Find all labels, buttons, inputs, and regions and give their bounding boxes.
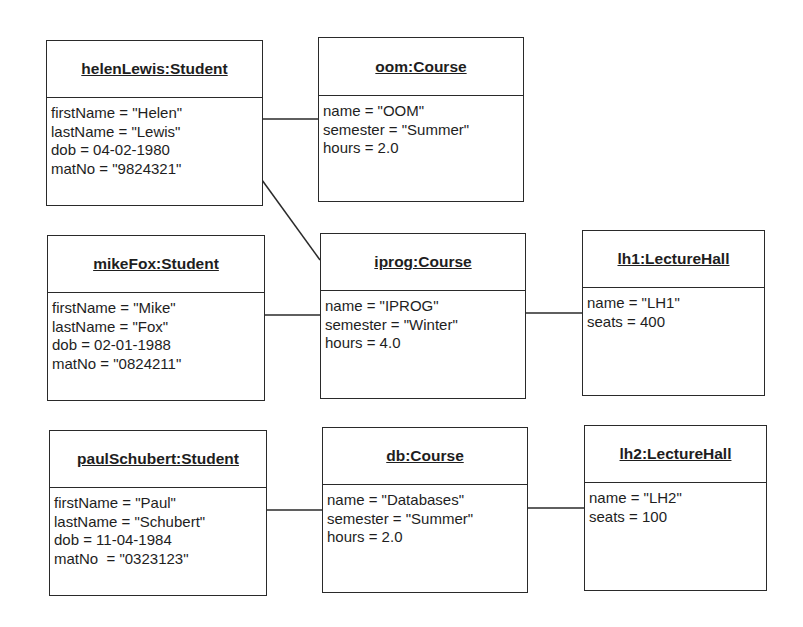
attribute: name = "Databases": [327, 491, 527, 510]
object-oom-course: oom:Course name = "OOM" semester = "Summ…: [318, 37, 524, 202]
object-title: helenLewis:Student: [81, 60, 227, 78]
attribute: hours = 4.0: [325, 334, 525, 353]
attribute: name = "LH2": [589, 489, 766, 508]
object-title: paulSchubert:Student: [77, 450, 239, 468]
object-header: db:Course: [323, 428, 527, 485]
object-header: iprog:Course: [321, 234, 525, 291]
object-attributes: name = "LH1" seats = 400: [583, 288, 764, 331]
link-helen-iprog: [262, 180, 320, 260]
attribute: matNo = "0824211": [52, 355, 264, 374]
object-lh1-lecturehall: lh1:LectureHall name = "LH1" seats = 400: [582, 230, 765, 396]
object-attributes: name = "LH2" seats = 100: [585, 483, 766, 526]
object-paulschubert-student: paulSchubert:Student firstName = "Paul" …: [49, 430, 267, 596]
attribute: lastName = "Lewis": [51, 123, 262, 142]
attribute: name = "OOM": [323, 102, 523, 121]
object-title: lh2:LectureHall: [620, 445, 732, 463]
attribute: name = "LH1": [587, 294, 764, 313]
attribute: hours = 2.0: [323, 139, 523, 158]
object-mikefox-student: mikeFox:Student firstName = "Mike" lastN…: [47, 235, 265, 401]
object-header: helenLewis:Student: [47, 41, 262, 98]
object-title: iprog:Course: [374, 253, 471, 271]
object-attributes: name = "OOM" semester = "Summer" hours =…: [319, 96, 523, 158]
attribute: semester = "Summer": [327, 510, 527, 529]
object-iprog-course: iprog:Course name = "IPROG" semester = "…: [320, 233, 526, 399]
attribute: firstName = "Paul": [54, 494, 266, 513]
attribute: dob = 04-02-1980: [51, 141, 262, 160]
object-header: lh2:LectureHall: [585, 426, 766, 483]
attribute: lastName = "Fox": [52, 318, 264, 337]
attribute: semester = "Summer": [323, 121, 523, 140]
attribute: semester = "Winter": [325, 316, 525, 335]
attribute: matNo = "0323123": [54, 550, 266, 569]
attribute: firstName = "Helen": [51, 104, 262, 123]
attribute: lastName = "Schubert": [54, 513, 266, 532]
attribute: dob = 11-04-1984: [54, 531, 266, 550]
attribute: seats = 400: [587, 313, 764, 332]
object-attributes: name = "Databases" semester = "Summer" h…: [323, 485, 527, 547]
object-header: oom:Course: [319, 38, 523, 96]
object-attributes: name = "IPROG" semester = "Winter" hours…: [321, 291, 525, 353]
attribute: hours = 2.0: [327, 528, 527, 547]
object-attributes: firstName = "Paul" lastName = "Schubert"…: [50, 488, 266, 568]
attribute: dob = 02-01-1988: [52, 336, 264, 355]
object-db-course: db:Course name = "Databases" semester = …: [322, 427, 528, 593]
object-title: db:Course: [386, 447, 464, 465]
object-header: mikeFox:Student: [48, 236, 264, 293]
object-attributes: firstName = "Mike" lastName = "Fox" dob …: [48, 293, 264, 373]
object-header: paulSchubert:Student: [50, 431, 266, 488]
object-attributes: firstName = "Helen" lastName = "Lewis" d…: [47, 98, 262, 178]
attribute: seats = 100: [589, 508, 766, 527]
attribute: name = "IPROG": [325, 297, 525, 316]
object-title: oom:Course: [375, 58, 466, 76]
attribute: firstName = "Mike": [52, 299, 264, 318]
object-lh2-lecturehall: lh2:LectureHall name = "LH2" seats = 100: [584, 425, 767, 591]
object-header: lh1:LectureHall: [583, 231, 764, 288]
object-title: mikeFox:Student: [93, 255, 219, 273]
object-title: lh1:LectureHall: [618, 250, 730, 268]
object-helenlewis-student: helenLewis:Student firstName = "Helen" l…: [46, 40, 263, 206]
attribute: matNo = "9824321": [51, 160, 262, 179]
